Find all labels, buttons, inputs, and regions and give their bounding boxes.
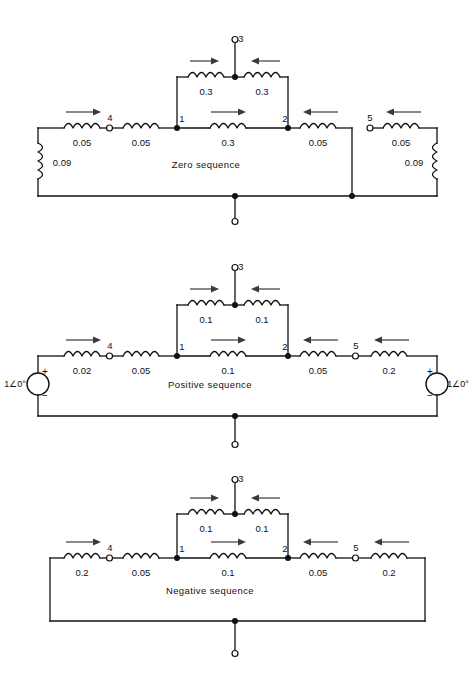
source-label-left-pos: 1∠0° [4,379,26,389]
inductor-middle-pos [210,352,246,357]
label-tee-right-pos: 0.1 [255,314,268,325]
label-right-inner-zero: 0.05 [309,137,328,148]
inductor-middle-neg [210,554,246,559]
node-label-5-zero: 5 [367,112,372,123]
ground-terminal-pos[interactable] [232,442,238,448]
inductor-tee-left-neg [188,510,224,515]
terminal-node-3-pos[interactable] [232,265,238,271]
current-arrow-tee-left-pos [190,286,219,293]
inductor-right-inner-neg [300,554,336,559]
terminal-node-4-zero[interactable] [107,125,113,131]
polarity-minus-left-pos: − [42,390,48,401]
label-left-outer-pos: 0.02 [73,365,92,376]
inductor-tee-right-neg [244,510,280,515]
current-arrow-right-inner-neg [303,539,338,546]
terminal-node-5-zero[interactable] [367,125,373,131]
terminal-node-3-zero[interactable] [232,37,238,43]
polarity-plus-left-pos: + [42,366,48,377]
current-arrow-left-outer-zero [66,109,101,116]
label-middle-neg: 0.1 [221,567,234,578]
label-tee-left-neg: 0.1 [199,523,212,534]
inductor-tee-right-zero [244,73,280,78]
node-label-3-neg: 3 [238,473,243,484]
terminal-node-4-neg[interactable] [107,555,113,561]
network-positive-sequence: + − 1∠0° + − 1∠0° [4,261,469,448]
network-title-pos: Positive sequence [168,379,252,390]
inductor-right-inner-pos [300,352,336,357]
label-right-inner-pos: 0.05 [309,365,328,376]
node-label-5-pos: 5 [353,340,358,351]
inductor-tee-left-zero [188,73,224,78]
node-label-2-neg: 2 [282,543,287,554]
inductor-left-inner-zero [123,124,159,129]
ground-terminal-zero[interactable] [232,219,238,225]
node-label-5-neg: 5 [353,542,358,553]
polarity-minus-right-pos: − [427,390,433,401]
node-label-4-zero: 4 [107,112,112,123]
current-arrow-left-outer-neg [66,539,101,546]
inductor-right-outer-neg [371,554,407,559]
current-arrow-left-outer-pos [66,337,101,344]
inductor-left-shunt-zero [38,143,43,179]
node-label-2-zero: 2 [282,113,287,124]
node-label-1-pos: 1 [179,341,184,352]
label-left-outer-neg: 0.2 [75,567,88,578]
current-arrow-middle-zero [211,109,246,116]
current-arrow-tee-right-neg [251,495,280,502]
current-arrow-right-outer-pos [374,337,409,344]
terminal-node-5-pos[interactable] [353,353,359,359]
current-arrow-tee-right-pos [251,286,280,293]
inductor-right-outer-pos [371,352,407,357]
inductor-tee-left-pos [188,301,224,306]
current-arrow-right-inner-zero [303,109,338,116]
inductor-left-outer-zero [64,124,100,129]
node-label-4-pos: 4 [107,340,112,351]
node-label-4-neg: 4 [107,542,112,553]
label-left-shunt-zero: 0.09 [53,157,72,168]
node-label-1-zero: 1 [179,113,184,124]
current-arrow-middle-pos [211,337,246,344]
current-arrow-right-inner-pos [303,337,338,344]
network-title-zero: Zero sequence [172,159,241,170]
terminal-node-4-pos[interactable] [107,353,113,359]
terminal-node-3-neg[interactable] [232,477,238,483]
ground-terminal-neg[interactable] [232,651,238,657]
terminal-node-5-neg[interactable] [353,555,359,561]
label-right-outer-pos: 0.2 [382,365,395,376]
label-left-inner-pos: 0.05 [132,365,151,376]
label-middle-pos: 0.1 [221,365,234,376]
ground-node-right-zero [349,193,355,199]
node-label-3-zero: 3 [238,33,243,44]
circuit-canvas: 0.05 0.05 0.3 0.05 0.05 0.3 0.3 0.09 0.0… [0,0,475,675]
label-left-inner-zero: 0.05 [132,137,151,148]
label-tee-left-pos: 0.1 [199,314,212,325]
sequence-networks-figure: 0.05 0.05 0.3 0.05 0.05 0.3 0.3 0.09 0.0… [0,0,475,675]
label-right-inner-neg: 0.05 [309,567,328,578]
label-left-outer-zero: 0.05 [73,137,92,148]
node-label-2-pos: 2 [282,341,287,352]
inductor-left-inner-neg [123,554,159,559]
inductor-right-inner-zero [300,124,336,129]
label-left-inner-neg: 0.05 [132,567,151,578]
current-arrow-middle-neg [211,539,246,546]
current-arrow-right-outer-zero [386,109,421,116]
current-arrow-tee-left-zero [190,58,219,65]
inductor-left-inner-pos [123,352,159,357]
label-tee-right-zero: 0.3 [255,86,268,97]
source-label-right-pos: 1∠0° [447,379,469,389]
node-label-1-neg: 1 [179,543,184,554]
inductor-left-outer-neg [64,554,100,559]
label-right-outer-neg: 0.2 [382,567,395,578]
node-label-3-pos: 3 [238,261,243,272]
current-arrow-right-outer-neg [374,539,409,546]
label-right-shunt-zero: 0.09 [405,157,424,168]
network-title-neg: Negative sequence [166,585,254,596]
current-arrow-tee-left-neg [190,495,219,502]
network-zero-sequence: 0.05 0.05 0.3 0.05 0.05 0.3 0.3 0.09 0.0… [38,33,437,225]
label-tee-left-zero: 0.3 [199,86,212,97]
label-middle-zero: 0.3 [221,137,234,148]
label-tee-right-neg: 0.1 [255,523,268,534]
network-negative-sequence: 0.2 0.05 0.1 0.05 0.2 0.1 0.1 4 1 2 5 3 … [50,473,425,657]
polarity-plus-right-pos: + [427,366,433,377]
inductor-right-shunt-zero [433,143,438,179]
